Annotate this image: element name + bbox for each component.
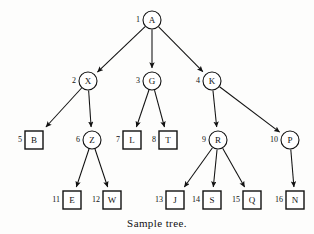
tree-edge-g-to-t (154, 90, 164, 127)
node-label-r: R (215, 135, 221, 145)
tree-edge-k-to-r (213, 90, 217, 127)
node-index-10: 10 (270, 135, 278, 144)
tree-edge-p-to-n (291, 149, 294, 187)
node-label-x: X (85, 76, 92, 86)
tree-node-l[interactable]: L7 (116, 131, 141, 149)
node-label-s: S (209, 195, 214, 205)
tree-edge-x-to-b (46, 88, 82, 127)
node-index-9: 9 (202, 135, 206, 144)
node-index-11: 11 (52, 195, 60, 204)
tree-edge-r-to-q (223, 148, 245, 187)
tree-node-g[interactable]: G3 (136, 72, 161, 90)
node-label-a: A (149, 15, 156, 25)
tree-node-a[interactable]: A1 (136, 11, 161, 29)
figure-caption: Sample tree. (127, 217, 187, 229)
tree-figure: A1X2G3K4B5Z6L7T8R9P10E11W12J13S14Q15N16 … (0, 0, 314, 234)
node-label-l: L (129, 135, 135, 145)
node-label-w: W (108, 195, 117, 205)
node-label-k: K (209, 76, 216, 86)
tree-node-r[interactable]: R9 (202, 131, 227, 149)
node-label-q: Q (249, 195, 256, 205)
tree-edge-z-to-e (76, 149, 89, 187)
node-label-g: G (149, 76, 156, 86)
tree-edge-r-to-s (213, 149, 217, 187)
node-index-7: 7 (116, 135, 120, 144)
node-label-p: P (287, 135, 292, 145)
node-index-3: 3 (136, 76, 140, 85)
tree-node-e[interactable]: E11 (52, 191, 81, 209)
node-label-j: J (173, 195, 177, 205)
tree-node-b[interactable]: B5 (18, 131, 43, 149)
tree-node-j[interactable]: J13 (155, 191, 184, 209)
tree-edge-g-to-l (136, 90, 149, 127)
node-index-15: 15 (232, 195, 240, 204)
tree-edge-x-to-z (89, 90, 91, 127)
node-index-1: 1 (136, 15, 140, 24)
node-index-14: 14 (192, 195, 200, 204)
tree-edge-a-to-x (97, 27, 145, 72)
tree-node-p[interactable]: P10 (270, 131, 299, 149)
node-index-8: 8 (152, 135, 156, 144)
node-index-13: 13 (155, 195, 163, 204)
node-label-b: B (31, 135, 37, 145)
tree-edge-a-to-k (159, 27, 203, 72)
node-label-e: E (69, 195, 75, 205)
tree-node-k[interactable]: K4 (196, 72, 221, 90)
tree-node-t[interactable]: T8 (152, 131, 177, 149)
tree-edge-r-to-j (184, 148, 212, 187)
node-index-6: 6 (76, 135, 80, 144)
node-index-5: 5 (18, 135, 22, 144)
node-label-z: Z (89, 135, 95, 145)
tree-node-x[interactable]: X2 (72, 72, 97, 90)
node-index-16: 16 (275, 195, 283, 204)
node-index-2: 2 (72, 76, 76, 85)
edges-layer (46, 27, 294, 187)
tree-edge-z-to-w (95, 149, 108, 187)
node-index-12: 12 (92, 195, 100, 204)
tree-node-w[interactable]: W12 (92, 191, 121, 209)
tree-node-z[interactable]: Z6 (76, 131, 101, 149)
tree-diagram: A1X2G3K4B5Z6L7T8R9P10E11W12J13S14Q15N16 … (0, 0, 314, 234)
tree-node-n[interactable]: N16 (275, 191, 304, 209)
tree-node-s[interactable]: S14 (192, 191, 221, 209)
tree-edge-k-to-p (220, 87, 280, 132)
node-label-t: T (165, 135, 171, 145)
tree-node-q[interactable]: Q15 (232, 191, 261, 209)
node-label-n: N (292, 195, 299, 205)
node-index-4: 4 (196, 76, 200, 85)
